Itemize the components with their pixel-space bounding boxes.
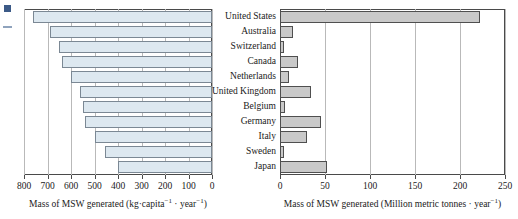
bar-right-germany bbox=[280, 116, 321, 128]
bar-right-switzerland bbox=[280, 41, 284, 53]
tick-label: 250 bbox=[489, 181, 518, 191]
gridline bbox=[325, 9, 326, 175]
figure-root: 8007006005004003002001000 Mass of MSW ge… bbox=[0, 0, 518, 219]
right-x-axis-title: Mass of MSW generated (Million metric to… bbox=[260, 196, 518, 210]
tick-mark bbox=[325, 175, 326, 179]
tick-label: 0 bbox=[264, 181, 296, 191]
bar-right-united-states bbox=[280, 11, 480, 23]
tick-label: 150 bbox=[399, 181, 431, 191]
bar-right-australia bbox=[280, 26, 293, 38]
tick-mark bbox=[460, 175, 461, 179]
bar-right-canada bbox=[280, 56, 298, 68]
bar-right-japan bbox=[280, 161, 327, 173]
gridline bbox=[505, 9, 506, 175]
gridline bbox=[415, 9, 416, 175]
right-plot-area bbox=[280, 9, 505, 175]
tick-label: 200 bbox=[444, 181, 476, 191]
bar-right-belgium bbox=[280, 101, 285, 113]
bar-right-italy bbox=[280, 131, 307, 143]
tick-mark bbox=[415, 175, 416, 179]
bar-right-sweden bbox=[280, 146, 284, 158]
tick-mark bbox=[505, 175, 506, 179]
tick-label: 100 bbox=[354, 181, 386, 191]
gridline bbox=[460, 9, 461, 175]
tick-label: 50 bbox=[309, 181, 341, 191]
right-chart-panel: 050100150200250 Mass of MSW generated (M… bbox=[0, 0, 518, 219]
tick-mark bbox=[370, 175, 371, 179]
bar-right-united-kingdom bbox=[280, 86, 311, 98]
bar-right-netherlands bbox=[280, 71, 289, 83]
tick-mark bbox=[280, 175, 281, 179]
gridline bbox=[370, 9, 371, 175]
